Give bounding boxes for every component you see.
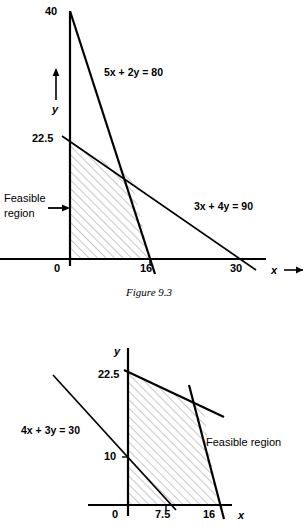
y-tick-label-10-2: 10 <box>104 450 116 462</box>
x-tick-label-0-2: 0 <box>112 508 118 520</box>
feasible-region-label-2: Feasible region <box>206 436 281 448</box>
x-axis-label-2: x <box>238 509 244 521</box>
x-tick-label-7p5-2: 7.5 <box>155 508 170 520</box>
figure-2-plot <box>0 0 306 531</box>
equation-label-4x-3y-30: 4x + 3y = 30 <box>21 424 80 436</box>
figure-sheet: 40 22.5 y 5x + 2y = 80 3x + 4y = 90 Feas… <box>0 0 306 531</box>
y-tick-label-22p5-2: 22.5 <box>98 368 119 380</box>
y-axis-label-2: y <box>114 345 120 357</box>
x-tick-label-16-2: 16 <box>203 508 215 520</box>
